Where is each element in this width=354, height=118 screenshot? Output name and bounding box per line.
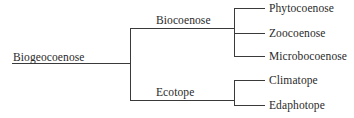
connector-ecotope xyxy=(130,100,234,101)
connector-ecotope-split xyxy=(234,80,235,106)
connector-climatope xyxy=(234,80,265,81)
connector-root-split xyxy=(130,28,131,101)
node-biocoenose: Biocoenose xyxy=(156,14,211,26)
node-ecotope: Ecotope xyxy=(156,86,194,98)
connector-biocoenose xyxy=(130,28,234,29)
node-phytocoenose: Phytocoenose xyxy=(269,2,334,14)
node-zoocoenose: Zoocoenose xyxy=(269,27,326,39)
connector-edaphotope xyxy=(234,105,265,106)
connector-phytocoenose xyxy=(234,8,265,9)
node-biogeocoenose: Biogeocoenose xyxy=(13,51,85,63)
node-edaphotope: Edaphotope xyxy=(269,99,325,111)
connector-zoocoenose xyxy=(234,33,265,34)
node-microbocoenose: Microbocoenose xyxy=(269,50,347,62)
connector-root xyxy=(12,63,130,64)
connector-microbocoenose xyxy=(234,56,265,57)
node-climatope: Climatope xyxy=(269,74,318,86)
